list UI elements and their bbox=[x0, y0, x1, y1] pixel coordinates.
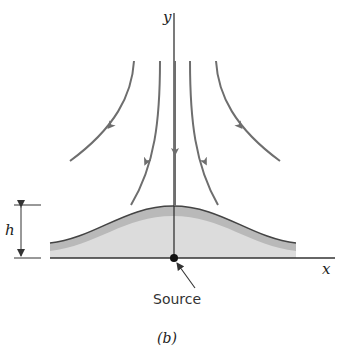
source-label: Source bbox=[153, 292, 201, 306]
streamline-outer-right bbox=[216, 61, 280, 161]
figure-caption: (b) bbox=[157, 331, 177, 345]
diagram-canvas: y x h Source (b) bbox=[0, 0, 341, 354]
streamline-outer-right-arrow-icon bbox=[216, 61, 240, 126]
streamline-outer-left-arrow-icon bbox=[110, 61, 134, 126]
streamline-inner-right bbox=[190, 61, 218, 205]
source-point bbox=[170, 254, 178, 262]
streamline-inner-left bbox=[131, 61, 160, 205]
y-axis-label: y bbox=[163, 10, 171, 25]
h-dimension-label: h bbox=[5, 223, 15, 238]
streamline-outer-left bbox=[70, 61, 134, 161]
x-axis-label: x bbox=[322, 262, 330, 277]
source-pointer-arrow-icon bbox=[177, 263, 195, 288]
